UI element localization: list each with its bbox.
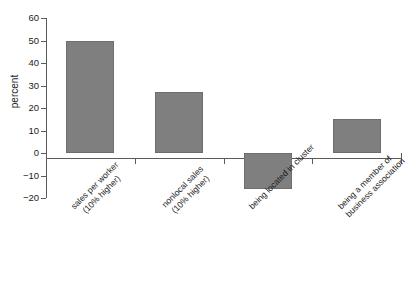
y-tick-label: 50	[1, 36, 39, 46]
y-tick-mark	[41, 41, 46, 42]
y-tick-mark	[41, 18, 46, 19]
bar	[155, 92, 203, 153]
y-tick-mark	[41, 198, 46, 199]
y-tick-label: 60	[1, 13, 39, 23]
x-category-label: being a member ofbusiness association	[335, 162, 392, 219]
y-tick-label: −10	[1, 171, 39, 181]
y-axis-line	[46, 18, 47, 198]
y-tick-label: −20	[1, 193, 39, 203]
y-tick-mark	[41, 63, 46, 64]
bar	[333, 119, 381, 153]
y-tick-label: 20	[1, 103, 39, 113]
y-tick-label: 10	[1, 126, 39, 136]
x-tick-mark	[312, 159, 313, 164]
x-tick-mark	[224, 159, 225, 164]
x-category-label: sales per worker(10% higher)	[69, 162, 126, 219]
y-tick-label: 30	[1, 81, 39, 91]
x-category-label: nonlocal sales(10% higher)	[158, 162, 215, 219]
bar-chart: percent −20−100102030405060 sales per wo…	[0, 0, 414, 290]
y-tick-mark	[41, 176, 46, 177]
x-axis-end-tick	[46, 153, 47, 159]
y-tick-mark	[41, 86, 46, 87]
y-tick-label: 40	[1, 58, 39, 68]
y-tick-mark	[41, 131, 46, 132]
bar	[66, 41, 114, 154]
y-tick-mark	[41, 108, 46, 109]
y-tick-label: 0	[1, 148, 39, 158]
x-tick-mark	[135, 159, 136, 164]
